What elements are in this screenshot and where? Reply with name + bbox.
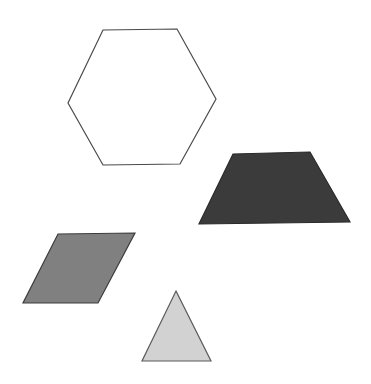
shapes-svg (0, 0, 371, 384)
shapes-canvas (0, 0, 371, 384)
